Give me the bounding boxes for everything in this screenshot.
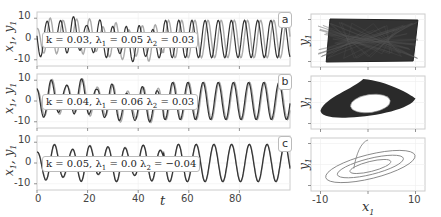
annotation-b: k = 0.04, λ1 = 0.06 λ2 = 0.03 (42, 94, 198, 110)
xtick-phase: -10 (312, 194, 328, 205)
ytick: -10 (14, 177, 30, 188)
ytick: 10 (18, 134, 31, 145)
xtick: 60 (181, 193, 194, 204)
xlabel-phase: x1 (362, 199, 374, 217)
xlabel-t: t (160, 193, 165, 208)
ytick: 0 (25, 156, 31, 167)
panel-label-c: c (278, 136, 292, 152)
ylabel-phase-b: y1 (297, 96, 313, 108)
ylabel-c: x1, y1 (2, 145, 18, 176)
xtick-phase: 10 (408, 194, 421, 205)
ytick: 10 (18, 72, 31, 83)
ylabel-phase-a: y1 (297, 34, 313, 46)
xtick: 0 (35, 193, 41, 204)
ytick: 0 (25, 32, 31, 43)
ytick: 10 (18, 10, 31, 21)
panel-label-a: a (278, 12, 292, 28)
ylabel-b: x1, y1 (2, 83, 18, 114)
ytick: -10 (14, 53, 30, 64)
ylabel-phase-c: y1 (297, 158, 313, 170)
ylabel-a: x1, y1 (2, 21, 18, 52)
xtick: 40 (132, 193, 145, 204)
panel-label-b: b (278, 74, 292, 90)
xtick: 80 (229, 193, 242, 204)
annotation-a: k = 0.03, λ1 = 0.05 λ2 = 0.03 (42, 32, 198, 48)
ytick: -10 (14, 115, 30, 126)
ytick: 0 (25, 94, 31, 105)
annotation-c: k = 0.05, λ1 = 0.0 λ2 = −0.04 (42, 156, 200, 172)
xtick: 20 (83, 193, 96, 204)
